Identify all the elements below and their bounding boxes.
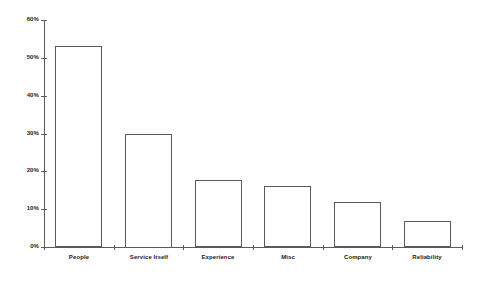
y-axis-tick <box>41 58 47 59</box>
x-axis-label-company: Company <box>323 254 393 260</box>
x-axis-tick <box>392 245 393 250</box>
y-axis-tick-label: 0% <box>0 243 39 249</box>
y-axis-tick <box>41 171 47 172</box>
x-axis-tick <box>44 245 45 250</box>
bar-misc <box>264 186 311 247</box>
x-axis-label-reliability: Reliability <box>392 254 462 260</box>
y-axis-tick-label: 20% <box>0 167 39 173</box>
y-axis-tick-label: 10% <box>0 205 39 211</box>
bar-company <box>334 202 381 247</box>
bar-experience <box>195 180 242 247</box>
x-axis-tick <box>323 245 324 250</box>
y-axis-tick <box>41 96 47 97</box>
y-axis-tick-label: 50% <box>0 54 39 60</box>
bar-people <box>55 46 102 247</box>
x-axis-tick <box>183 245 184 250</box>
x-axis-label-misc: Misc <box>253 254 323 260</box>
plot-area: 0%10%20%30%40%50%60% PeopleService Itsel… <box>0 0 484 281</box>
y-axis-tick <box>41 209 47 210</box>
x-axis-tick <box>114 245 115 250</box>
y-axis-tick <box>41 20 47 21</box>
bar-chart: 0%10%20%30%40%50%60% PeopleService Itsel… <box>0 0 484 281</box>
x-axis-tick <box>253 245 254 250</box>
y-axis-tick-label: 40% <box>0 92 39 98</box>
y-axis-tick-label: 30% <box>0 130 39 136</box>
x-axis-tick <box>462 245 463 250</box>
bar-reliability <box>404 221 451 247</box>
x-axis-label-experience: Experience <box>183 254 253 260</box>
y-axis-tick <box>41 134 47 135</box>
y-axis-tick-label: 60% <box>0 16 39 22</box>
x-axis-label-people: People <box>44 254 114 260</box>
x-axis-label-service-itself: Service Itself <box>114 254 184 260</box>
bar-service-itself <box>125 134 172 248</box>
